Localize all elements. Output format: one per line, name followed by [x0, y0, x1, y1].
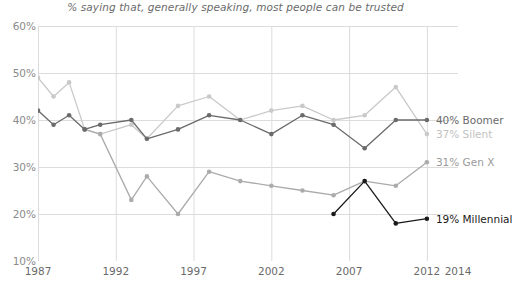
- x-tick-1987: 1987: [25, 265, 52, 277]
- x-tick-1997: 1997: [180, 265, 207, 277]
- x-tick-2002: 2002: [258, 265, 285, 277]
- plot-svg: [38, 26, 458, 261]
- series-label-boomer: 40% Boomer: [436, 114, 504, 126]
- series-label-millennial: 19% Millennial: [436, 213, 512, 225]
- series-label-silent: 37% Silent: [436, 128, 492, 140]
- x-tick-2007: 2007: [336, 265, 363, 277]
- x-tick-2012: 2012: [414, 265, 441, 277]
- x-tick-1992: 1992: [102, 265, 129, 277]
- plot-area: [38, 26, 458, 261]
- x-tick-2014: 2014: [445, 265, 472, 277]
- series-label-gen-x: 31% Gen X: [436, 156, 494, 168]
